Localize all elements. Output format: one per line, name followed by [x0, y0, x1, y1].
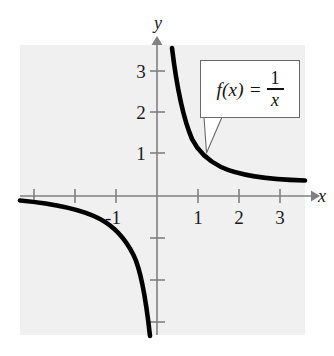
formula-equals-sign: =	[249, 80, 262, 99]
formula-numerator: 1	[268, 69, 283, 88]
y-axis-arrowhead	[152, 36, 163, 45]
x-axis-label: x	[317, 186, 326, 206]
y-tick-label-2: 2	[136, 102, 146, 123]
formula-denominator: x	[268, 90, 282, 109]
formula-function-name: f(x)	[217, 80, 244, 99]
x-tick-label-1: 1	[193, 207, 203, 228]
y-tick-label-1: 1	[136, 143, 146, 164]
formula-callout-box: f(x) = 1 x	[200, 60, 300, 118]
formula-expression: f(x) = 1 x	[217, 69, 284, 109]
x-tick-label-2: 2	[234, 207, 244, 228]
plot-canvas: -1 1 2 3 1 2 3 x y	[0, 0, 334, 356]
x-tick-label-3: 3	[275, 207, 285, 228]
formula-fraction: 1 x	[267, 69, 284, 109]
y-tick-label-3: 3	[136, 61, 146, 82]
y-axis-label: y	[152, 13, 162, 33]
graph-figure: -1 1 2 3 1 2 3 x y f(x) = 1 x	[0, 0, 334, 356]
